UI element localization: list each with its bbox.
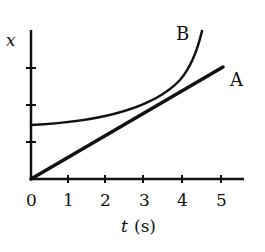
position-time-graph: x B A 0 1 2 3 4 5 t (s) (0, 0, 265, 252)
y-axis-label: x (6, 30, 16, 50)
series-b-label: B (176, 23, 189, 44)
series-a-label: A (229, 69, 244, 90)
x-tick-label-5: 5 (216, 190, 227, 210)
x-tick-label-0: 0 (26, 190, 37, 210)
x-tick-label-4: 4 (177, 190, 188, 210)
x-axis-var-label: t (121, 216, 128, 236)
x-axis-unit-label: (s) (134, 216, 156, 236)
series-b-curve (31, 31, 202, 125)
x-tick-label-1: 1 (63, 190, 74, 210)
x-tick-label-2: 2 (100, 190, 111, 210)
x-tick-label-3: 3 (139, 190, 150, 210)
